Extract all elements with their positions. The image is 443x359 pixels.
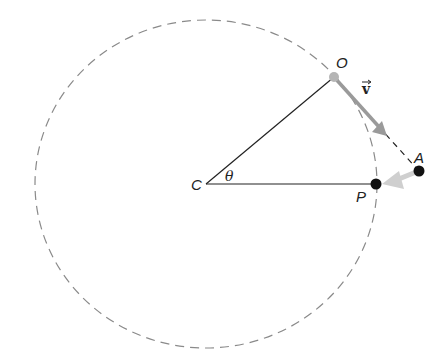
end-point-label: P <box>356 188 366 205</box>
center-label: C <box>191 176 202 193</box>
velocity-label-group: v <box>361 80 371 97</box>
velocity-arrow <box>334 77 387 136</box>
start-point-label: O <box>336 54 348 71</box>
end-point-dot <box>371 179 382 190</box>
fall-arrow <box>382 171 416 189</box>
tangent-point-dot <box>414 166 425 177</box>
start-point-dot <box>329 72 339 82</box>
circular-motion-diagram: C θ O P A v <box>0 0 443 359</box>
tangent-point-label: A <box>413 149 424 166</box>
angle-label: θ <box>225 168 234 184</box>
